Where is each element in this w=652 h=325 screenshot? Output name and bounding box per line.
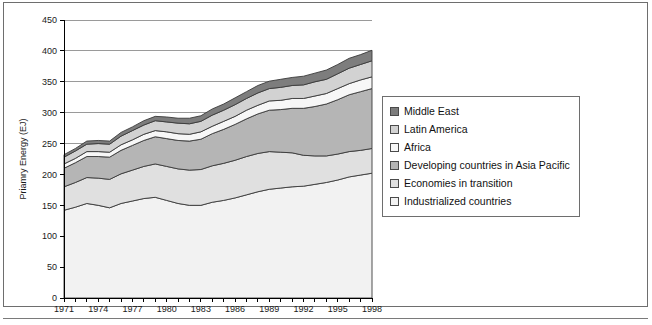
- svg-text:1986: 1986: [225, 304, 245, 314]
- legend-item[interactable]: Economies in transition: [390, 174, 573, 192]
- svg-text:450: 450: [42, 15, 57, 25]
- svg-text:1992: 1992: [294, 304, 314, 314]
- legend-swatch-africa: [390, 143, 399, 152]
- svg-text:350: 350: [42, 77, 57, 87]
- figure-container: 050100150200250300350400450 197119741977…: [0, 0, 652, 325]
- legend-label: Africa: [404, 141, 431, 153]
- svg-text:150: 150: [42, 201, 57, 211]
- legend-item[interactable]: Africa: [390, 138, 573, 156]
- legend-item[interactable]: Latin America: [390, 120, 573, 138]
- svg-text:400: 400: [42, 46, 57, 56]
- legend-swatch-industrialized-countries: [390, 197, 399, 206]
- legend-label: Industrialized countries: [404, 195, 511, 207]
- plot-areas: [64, 50, 372, 298]
- svg-text:1980: 1980: [157, 304, 177, 314]
- legend-label: Middle East: [404, 105, 459, 117]
- legend-item[interactable]: Middle East: [390, 102, 573, 120]
- svg-text:1977: 1977: [122, 304, 142, 314]
- svg-text:1971: 1971: [54, 304, 74, 314]
- svg-text:100: 100: [42, 231, 57, 241]
- legend-swatch-developing-asia-pacific: [390, 161, 399, 170]
- svg-text:200: 200: [42, 170, 57, 180]
- svg-text:1983: 1983: [191, 304, 211, 314]
- svg-text:1995: 1995: [328, 304, 348, 314]
- x-axis-tick-labels: 1971197419771980198319861989199219951998: [54, 304, 382, 314]
- svg-text:300: 300: [42, 108, 57, 118]
- legend-label: Developing countries in Asia Pacific: [404, 159, 570, 171]
- svg-text:1998: 1998: [362, 304, 382, 314]
- svg-text:1974: 1974: [88, 304, 108, 314]
- svg-text:Priamry Energy (EJ): Priamry Energy (EJ): [18, 118, 28, 199]
- legend-item[interactable]: Developing countries in Asia Pacific: [390, 156, 573, 174]
- legend-swatch-middle-east: [390, 107, 399, 116]
- svg-text:250: 250: [42, 139, 57, 149]
- y-axis-title: Priamry Energy (EJ): [18, 118, 28, 199]
- svg-text:50: 50: [47, 262, 57, 272]
- legend-label: Latin America: [404, 123, 468, 135]
- legend-swatch-latin-america: [390, 125, 399, 134]
- legend-item[interactable]: Industrialized countries: [390, 192, 573, 210]
- svg-text:1989: 1989: [259, 304, 279, 314]
- legend-label: Economies in transition: [404, 177, 513, 189]
- y-axis-tick-labels: 050100150200250300350400450: [42, 15, 57, 303]
- svg-text:0: 0: [52, 293, 57, 303]
- legend-swatch-economies-in-transition: [390, 179, 399, 188]
- chart-legend: Middle East Latin America Africa Develop…: [382, 96, 580, 217]
